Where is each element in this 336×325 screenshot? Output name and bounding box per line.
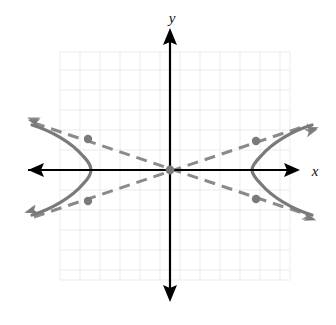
point-lower-left-asymptote	[84, 197, 92, 205]
grid-lines	[60, 52, 290, 280]
graph-figure: y x	[0, 0, 336, 325]
coordinate-plane-svg: y x	[0, 0, 336, 325]
point-upper-right-asymptote	[252, 137, 260, 145]
point-origin	[166, 166, 175, 175]
point-upper-left-asymptote	[84, 135, 92, 143]
y-axis-label: y	[167, 10, 176, 26]
x-axis-label: x	[311, 163, 319, 179]
point-lower-right-asymptote	[252, 195, 260, 203]
axis-arrowheads	[28, 28, 300, 302]
